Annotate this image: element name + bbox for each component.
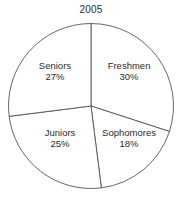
pie-label-value: 18% — [102, 138, 156, 150]
pie-label-sophomores: Sophomores18% — [102, 126, 156, 149]
pie-label-freshmen: Freshmen30% — [108, 59, 151, 82]
pie-label-name: Freshmen — [108, 59, 151, 71]
pie-chart: 2005 Freshmen30%Sophomores18%Juniors25%S… — [0, 0, 182, 204]
pie-label-value: 25% — [45, 138, 76, 150]
pie-label-juniors: Juniors25% — [45, 126, 76, 149]
pie-slice-group — [8, 24, 173, 189]
pie-label-value: 27% — [39, 71, 71, 83]
pie-label-name: Seniors — [39, 59, 71, 71]
pie-label-name: Juniors — [45, 126, 76, 138]
pie-label-seniors: Seniors27% — [39, 59, 71, 82]
pie-svg — [0, 0, 182, 204]
pie-label-value: 30% — [108, 71, 151, 83]
pie-label-name: Sophomores — [102, 126, 156, 138]
